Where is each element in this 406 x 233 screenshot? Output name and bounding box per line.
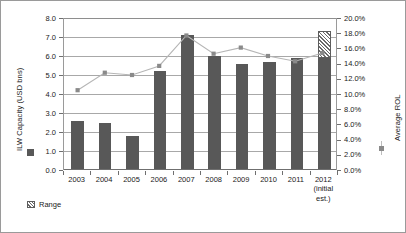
x-axis-tick-label-2007: 2007 xyxy=(178,175,195,184)
x-axis-tick-label-2005: 2005 xyxy=(123,175,140,184)
x-axis-tick-label-2008: 2008 xyxy=(205,175,222,184)
y-axis-left-tickmark xyxy=(59,113,63,114)
data-point-2008 xyxy=(212,52,216,56)
y-axis-left-tick-label: 5.0 xyxy=(1,71,56,80)
chart-figure: ILW Capacity (USD bns) Average ROL Range… xyxy=(0,0,406,233)
average-rol-line xyxy=(78,36,323,91)
x-axis-tickmark xyxy=(145,171,146,175)
x-axis-tickmark xyxy=(63,171,64,175)
x-axis-baseline xyxy=(64,169,336,170)
x-axis-tick-label-2003: 2003 xyxy=(68,175,85,184)
y-axis-right-tickmark xyxy=(337,33,341,34)
y-axis-left-tick-label: 7.0 xyxy=(1,33,56,42)
x-axis-tickmark xyxy=(173,171,174,175)
y-axis-left-tick-label: 8.0 xyxy=(1,14,56,23)
y-axis-left-tickmark xyxy=(59,132,63,133)
y-axis-right-tick-label: 16.0% xyxy=(344,44,365,53)
x-axis-tickmark xyxy=(227,171,228,175)
x-axis-tickmark xyxy=(337,171,338,175)
y-axis-right-title: Average ROL xyxy=(393,95,402,141)
x-axis-tick-label-2010: 2010 xyxy=(260,175,277,184)
data-point-2011 xyxy=(293,59,297,63)
x-axis-tickmark xyxy=(90,171,91,175)
y-axis-right-tick-label: 20.0% xyxy=(344,14,365,23)
x-axis-tick-label-2012: 2012(initialest.) xyxy=(314,175,334,203)
y-axis-left-tickmark xyxy=(59,94,63,95)
y-axis-left-tick-label: 3.0 xyxy=(1,109,56,118)
y-axis-right-tickmark xyxy=(337,64,341,65)
legend-item-average-rol xyxy=(377,141,386,155)
y-axis-right-tick-label: 6.0% xyxy=(344,120,361,129)
plot-area xyxy=(63,18,337,170)
x-axis-tick-label-2006: 2006 xyxy=(151,175,168,184)
data-point-2007 xyxy=(184,33,188,37)
data-point-2010 xyxy=(266,54,270,58)
y-axis-right-tickmark xyxy=(337,155,341,156)
y-axis-left-tickmark xyxy=(59,56,63,57)
data-point-2004 xyxy=(103,71,107,75)
range-hatch-swatch-icon xyxy=(27,201,35,208)
x-axis-tickmark xyxy=(200,171,201,175)
y-axis-right-tick-label: 4.0% xyxy=(344,135,361,144)
data-point-2005 xyxy=(130,73,134,77)
line-series xyxy=(64,18,336,170)
y-axis-left-tick-label: 4.0 xyxy=(1,90,56,99)
y-axis-right-tick-label: 2.0% xyxy=(344,150,361,159)
y-axis-right-tick-label: 8.0% xyxy=(344,105,361,114)
legend-item-range: Range xyxy=(27,200,61,209)
y-axis-right-tick-label: 12.0% xyxy=(344,74,365,83)
y-axis-right-tick-label: 14.0% xyxy=(344,59,365,68)
y-axis-right-tick-label: 18.0% xyxy=(344,29,365,38)
y-axis-left-tick-label: 0.0 xyxy=(1,166,56,175)
y-axis-right-tickmark xyxy=(337,124,341,125)
x-axis-tickmark xyxy=(118,171,119,175)
y-axis-left-tickmark xyxy=(59,18,63,19)
x-axis-tickmark xyxy=(282,171,283,175)
y-axis-left-tick-label: 1.0 xyxy=(1,147,56,156)
y-axis-left-tickmark xyxy=(59,75,63,76)
y-axis-left-tickmark xyxy=(59,151,63,152)
x-axis-tick-label-2004: 2004 xyxy=(96,175,113,184)
data-point-2012 xyxy=(320,51,324,55)
x-axis-tickmark xyxy=(310,171,311,175)
data-point-2009 xyxy=(239,46,243,50)
y-axis-left-tick-label: 6.0 xyxy=(1,52,56,61)
y-axis-right-tick-label: 10.0% xyxy=(344,90,365,99)
data-point-2003 xyxy=(76,88,80,92)
y-axis-right-tick-label: 0.0% xyxy=(344,166,361,175)
data-point-2006 xyxy=(157,64,161,68)
x-axis-tick-label-2009: 2009 xyxy=(233,175,250,184)
legend-label-range: Range xyxy=(39,200,61,209)
x-axis-tickmark xyxy=(255,171,256,175)
average-rol-line-marker-icon xyxy=(377,141,386,155)
x-axis-tick-label-2011: 2011 xyxy=(288,175,304,184)
y-axis-left-tick-label: 2.0 xyxy=(1,128,56,137)
y-axis-right-tickmark xyxy=(337,140,341,141)
y-axis-left-tickmark xyxy=(59,37,63,38)
y-axis-right-tickmark xyxy=(337,109,341,110)
y-axis-right-tickmark xyxy=(337,79,341,80)
y-axis-right-tickmark xyxy=(337,48,341,49)
y-axis-right-tickmark xyxy=(337,94,341,95)
y-axis-right-tickmark xyxy=(337,18,341,19)
